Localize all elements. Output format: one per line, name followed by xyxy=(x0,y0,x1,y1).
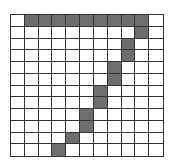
empty-cell xyxy=(39,97,53,109)
empty-cell xyxy=(94,50,108,62)
empty-cell xyxy=(94,133,108,145)
filled-cell xyxy=(122,39,136,51)
empty-cell xyxy=(39,86,53,98)
empty-cell xyxy=(11,50,25,62)
empty-cell xyxy=(66,50,80,62)
empty-cell xyxy=(52,50,66,62)
empty-cell xyxy=(122,74,136,86)
empty-cell xyxy=(11,109,25,121)
empty-cell xyxy=(52,62,66,74)
filled-cell xyxy=(39,15,53,27)
empty-cell xyxy=(52,121,66,133)
empty-cell xyxy=(149,15,163,27)
empty-cell xyxy=(108,133,122,145)
empty-cell xyxy=(52,74,66,86)
empty-cell xyxy=(135,39,149,51)
filled-cell xyxy=(94,15,108,27)
empty-cell xyxy=(52,133,66,145)
empty-cell xyxy=(149,109,163,121)
empty-cell xyxy=(66,62,80,74)
filled-cell xyxy=(135,27,149,39)
empty-cell xyxy=(25,74,39,86)
empty-cell xyxy=(52,86,66,98)
empty-cell xyxy=(108,97,122,109)
empty-cell xyxy=(66,39,80,51)
empty-cell xyxy=(25,86,39,98)
empty-cell xyxy=(25,27,39,39)
empty-cell xyxy=(149,144,163,156)
empty-cell xyxy=(80,27,94,39)
filled-cell xyxy=(52,144,66,156)
empty-cell xyxy=(11,144,25,156)
empty-cell xyxy=(135,109,149,121)
empty-cell xyxy=(39,39,53,51)
empty-cell xyxy=(11,15,25,27)
filled-cell xyxy=(135,15,149,27)
empty-cell xyxy=(80,144,94,156)
empty-cell xyxy=(149,50,163,62)
empty-cell xyxy=(149,39,163,51)
filled-cell xyxy=(122,50,136,62)
empty-cell xyxy=(80,133,94,145)
empty-cell xyxy=(80,86,94,98)
empty-cell xyxy=(94,74,108,86)
empty-cell xyxy=(94,39,108,51)
empty-cell xyxy=(25,109,39,121)
empty-cell xyxy=(135,144,149,156)
empty-cell xyxy=(122,86,136,98)
empty-cell xyxy=(108,144,122,156)
empty-cell xyxy=(108,86,122,98)
empty-cell xyxy=(122,121,136,133)
empty-cell xyxy=(149,74,163,86)
empty-cell xyxy=(108,39,122,51)
empty-cell xyxy=(149,133,163,145)
empty-cell xyxy=(25,39,39,51)
empty-cell xyxy=(135,86,149,98)
empty-cell xyxy=(39,74,53,86)
pixel-grid xyxy=(10,14,164,157)
filled-cell xyxy=(94,97,108,109)
empty-cell xyxy=(11,39,25,51)
empty-cell xyxy=(108,27,122,39)
empty-cell xyxy=(80,39,94,51)
empty-cell xyxy=(135,50,149,62)
empty-cell xyxy=(135,133,149,145)
empty-cell xyxy=(149,27,163,39)
filled-cell xyxy=(122,15,136,27)
empty-cell xyxy=(80,62,94,74)
filled-cell xyxy=(108,74,122,86)
empty-cell xyxy=(66,109,80,121)
filled-cell xyxy=(94,86,108,98)
empty-cell xyxy=(108,109,122,121)
empty-cell xyxy=(25,50,39,62)
empty-cell xyxy=(122,62,136,74)
empty-cell xyxy=(135,74,149,86)
empty-cell xyxy=(25,144,39,156)
empty-cell xyxy=(149,97,163,109)
empty-cell xyxy=(149,121,163,133)
empty-cell xyxy=(66,144,80,156)
empty-cell xyxy=(39,121,53,133)
empty-cell xyxy=(122,144,136,156)
filled-cell xyxy=(66,133,80,145)
empty-cell xyxy=(108,121,122,133)
empty-cell xyxy=(80,50,94,62)
empty-cell xyxy=(122,109,136,121)
empty-cell xyxy=(66,86,80,98)
filled-cell xyxy=(66,15,80,27)
empty-cell xyxy=(25,133,39,145)
empty-cell xyxy=(11,27,25,39)
empty-cell xyxy=(135,121,149,133)
empty-cell xyxy=(80,74,94,86)
empty-cell xyxy=(39,27,53,39)
empty-cell xyxy=(25,97,39,109)
empty-cell xyxy=(25,62,39,74)
empty-cell xyxy=(94,121,108,133)
empty-cell xyxy=(149,86,163,98)
empty-cell xyxy=(39,109,53,121)
empty-cell xyxy=(11,133,25,145)
empty-cell xyxy=(66,27,80,39)
filled-cell xyxy=(80,121,94,133)
empty-cell xyxy=(66,121,80,133)
filled-cell xyxy=(52,15,66,27)
